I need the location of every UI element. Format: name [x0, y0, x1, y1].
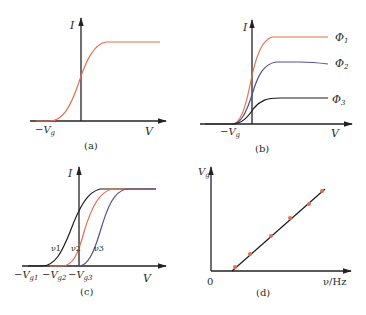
tick-vg2: −Vg2 [42, 269, 67, 282]
origin-label: 0 [207, 276, 213, 287]
stopping-voltage-label: −Vg [35, 124, 56, 137]
x-axis-label: V [331, 127, 340, 140]
curve-phi3 [205, 98, 328, 124]
label-nu2: ν2 [71, 244, 81, 253]
tick-vg3: −Vg3 [68, 269, 93, 282]
panel-b: I V −Vg Φ1 Φ2 Φ3 (b) [200, 20, 352, 154]
curve-nu3 [70, 189, 156, 266]
x-axis-label: V [143, 272, 152, 285]
label-nu1: ν1 [51, 244, 61, 253]
label-phi3: Φ3 [332, 93, 346, 107]
fit-line [232, 189, 325, 271]
curve-phi1 [205, 37, 328, 124]
iv-curve [36, 42, 160, 121]
figure: I V −Vg (a) I V −Vg Φ1 Φ2 Φ3 (b) I V ν1 … [0, 0, 366, 315]
caption-d: (d) [256, 287, 270, 298]
stopping-voltage-label: −Vg [220, 126, 241, 139]
data-point [307, 202, 311, 206]
label-nu3: ν3 [94, 244, 104, 253]
panel-c: I V ν1 ν2 ν3 −Vg1 −Vg2 −Vg3 (c) [14, 167, 166, 297]
y-axis-label: I [67, 167, 73, 180]
tick-vg1: −Vg1 [14, 269, 39, 282]
curve-nu2 [50, 189, 156, 266]
label-phi1: Φ1 [335, 31, 349, 45]
data-point [248, 252, 252, 256]
y-axis-label: Vg [198, 166, 210, 179]
label-phi2: Φ2 [335, 57, 349, 71]
y-axis-label: I [242, 21, 248, 34]
data-point [233, 265, 237, 269]
curve-phi2 [205, 62, 328, 124]
x-axis-label: ν/Hz [323, 276, 346, 287]
panel-a: I V −Vg (a) [30, 18, 166, 151]
data-point [269, 234, 273, 238]
data-point [288, 216, 292, 220]
caption-a: (a) [84, 140, 98, 151]
data-point [320, 189, 324, 193]
y-axis-label: I [69, 19, 75, 32]
data-points [233, 189, 324, 269]
caption-c: (c) [80, 286, 94, 297]
panel-d: Vg 0 ν/Hz (d) [198, 166, 351, 298]
caption-b: (b) [255, 143, 269, 154]
x-axis-label: V [145, 125, 154, 138]
